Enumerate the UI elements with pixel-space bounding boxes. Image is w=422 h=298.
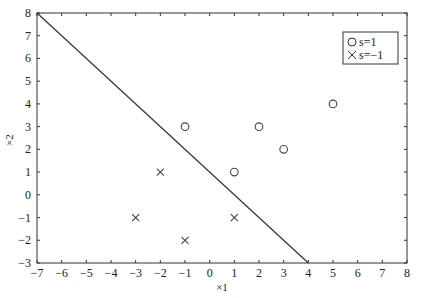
x-tick-label: −4 — [105, 266, 118, 280]
circle-marker — [329, 100, 337, 108]
x-tick-label: 7 — [379, 266, 385, 280]
decision-boundary — [37, 13, 308, 263]
circle-marker — [255, 123, 263, 131]
x-tick-label: 4 — [305, 266, 311, 280]
cross-marker — [231, 214, 238, 221]
y-tick-label: −2 — [18, 233, 31, 247]
x-tick-label: −6 — [55, 266, 68, 280]
x-tick-label: 5 — [330, 266, 336, 280]
legend-label-s-pos: s=1 — [359, 35, 376, 49]
x-tick-label: −5 — [80, 266, 93, 280]
circle-marker — [280, 146, 288, 154]
x-tick-label: −1 — [179, 266, 192, 280]
x-tick-label: 2 — [256, 266, 262, 280]
y-tick-label: 0 — [25, 188, 31, 202]
y-tick-label: −1 — [18, 211, 31, 225]
x-tick-label: −3 — [129, 266, 142, 280]
y-axis-label: ×2 — [3, 134, 15, 146]
circle-marker — [231, 168, 239, 176]
cross-marker — [157, 169, 164, 176]
legend-label-s-neg: s=−1 — [359, 48, 383, 62]
data-markers — [132, 100, 337, 244]
circle-marker — [181, 123, 189, 131]
x-axis-label: ×1 — [216, 281, 228, 293]
y-tick-label: 6 — [25, 51, 31, 65]
cross-marker — [132, 214, 139, 221]
y-tick-label: 1 — [25, 165, 31, 179]
y-tick-labels: −3−2−1012345678 — [18, 6, 31, 270]
scatter-chart: −7−6−5−4−3−2−1012345678 −3−2−1012345678 … — [0, 0, 422, 298]
x-tick-label: 8 — [404, 266, 410, 280]
x-tick-label: 6 — [355, 266, 361, 280]
x-tick-label: 3 — [281, 266, 287, 280]
x-tick-label: −7 — [31, 266, 44, 280]
y-tick-label: 2 — [25, 142, 31, 156]
decision-boundary-line — [37, 13, 308, 263]
y-tick-label: 8 — [25, 6, 31, 20]
y-tick-label: 4 — [25, 97, 31, 111]
y-tick-label: −3 — [18, 256, 31, 270]
x-tick-label: 0 — [207, 266, 213, 280]
x-tick-labels: −7−6−5−4−3−2−1012345678 — [31, 266, 410, 280]
x-tick-label: −2 — [154, 266, 167, 280]
y-tick-label: 7 — [25, 29, 31, 43]
x-tick-label: 1 — [231, 266, 237, 280]
legend: s=1 s=−1 — [343, 32, 398, 64]
y-tick-label: 5 — [25, 74, 31, 88]
y-tick-label: 3 — [25, 120, 31, 134]
cross-marker — [182, 237, 189, 244]
